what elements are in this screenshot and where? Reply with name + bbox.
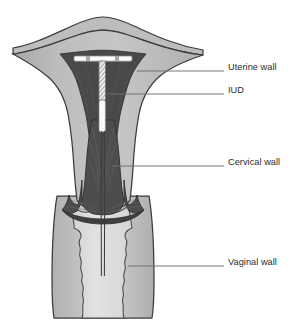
label-cervical-wall: Cervical wall [228,157,280,168]
iud-stem-lower [99,100,105,132]
label-iud: IUD [228,85,244,96]
iud-arm-joint-left [86,56,90,61]
anatomical-diagram-figure: Uterine wall IUD Cervical wall Vaginal w… [0,0,303,331]
label-uterine-wall: Uterine wall [228,62,277,73]
iud-stem-coil [99,61,105,100]
label-vaginal-wall: Vaginal wall [228,257,277,268]
iud-crossarm [74,56,132,61]
iud-arm-joint-right [115,56,119,61]
